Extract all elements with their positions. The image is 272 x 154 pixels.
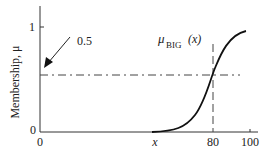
x-tick-label-100: 100 [241,135,259,149]
curve-label-arg: (x) [188,32,201,46]
x-variable-label: x [151,135,158,149]
arrow-label: 0.5 [77,34,92,48]
y-tick-label-1: 1 [29,20,35,34]
membership-chart: 0.5 1 0 0 x 80 100 Membership, μ μ BIG (… [0,0,272,154]
y-axis-label: Membership, μ [8,45,22,118]
x-tick-label-0: 0 [37,135,43,149]
curve-label-mu: μ [157,31,165,46]
arrow-line [48,37,70,63]
y-tick-label-0: 0 [30,123,36,137]
x-tick-label-80: 80 [207,135,219,149]
curve-label-sub: BIG [166,40,182,50]
